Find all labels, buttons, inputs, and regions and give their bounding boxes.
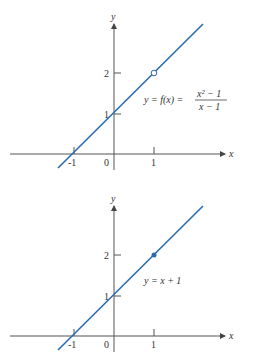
- y-axis-label: y: [110, 193, 116, 204]
- tick-label-x-1: 1: [151, 157, 156, 168]
- tick-label-x-1: 1: [151, 339, 156, 350]
- equation-lhs: y = f(x) =: [143, 94, 183, 106]
- hole-point: [151, 70, 157, 76]
- tick-label-x-neg1: -1: [68, 157, 76, 168]
- equation: y = x + 1: [143, 275, 181, 286]
- tick-label-x-neg1: -1: [68, 339, 76, 350]
- figure: x y -1 0 1 1 2 y = f(x) = x² − 1 x − 1 x…: [0, 0, 254, 364]
- x-axis-label: x: [228, 148, 234, 159]
- y-axis-label: y: [110, 11, 116, 22]
- tick-label-x-0: 0: [104, 157, 109, 168]
- filled-point: [152, 253, 157, 258]
- bottom-chart: x y -1 0 1 1 2 y = x + 1: [10, 193, 234, 352]
- equation-denominator: x − 1: [198, 101, 220, 112]
- top-chart: x y -1 0 1 1 2 y = f(x) = x² − 1 x − 1: [10, 11, 234, 170]
- tick-label-y-2: 2: [104, 250, 109, 261]
- tick-label-x-0: 0: [104, 339, 109, 350]
- tick-label-y-2: 2: [104, 68, 109, 79]
- x-axis-label: x: [228, 330, 234, 341]
- equation-numerator: x² − 1: [196, 88, 221, 99]
